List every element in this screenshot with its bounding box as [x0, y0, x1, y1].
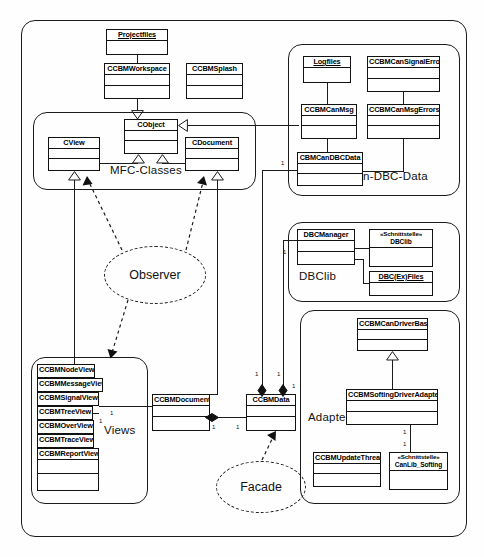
- pattern-facade: Facade: [216, 461, 306, 513]
- class-compartment-attributes: [314, 464, 380, 474]
- class-logfiles[interactable]: Logfiles: [303, 56, 351, 83]
- class-compartment-operations: [247, 417, 295, 430]
- pattern-label-observer: Observer: [129, 268, 180, 282]
- multiplicity-candbc-stray: 1: [281, 160, 284, 166]
- multiplicity-softing-1b: 1: [403, 441, 406, 447]
- gen-views-cview-v: [74, 180, 75, 364]
- assoc-dbcmanager-ccbmdata-h: [283, 240, 297, 241]
- class-compartment-operations: [186, 159, 238, 170]
- class-ccbmsplash[interactable]: CCBMSplash: [186, 63, 243, 99]
- class-ccbmmessageview[interactable]: CCBMMessageView: [37, 378, 103, 392]
- class-name-text-dbclib: DBClib: [390, 238, 411, 245]
- uml-class-diagram-canvas: Projectfiles CCBMWorkspace CCBMSplash MF…: [0, 0, 484, 557]
- class-name-ccbmdocument: CCBMDocument: [153, 395, 209, 406]
- class-dbc-ex-files[interactable]: DBC(Ex)Files: [369, 271, 433, 296]
- class-ccbmcansignalerror[interactable]: CCBMCanSignalError: [367, 56, 440, 92]
- class-compartment-operations: [370, 283, 432, 295]
- class-name-dbc-ex-files: DBC(Ex)Files: [370, 272, 432, 283]
- class-name-canlib-softing: «Schnittstelle» CanLib_Softing: [390, 453, 447, 471]
- composition-diamond-dbcmanager-ccbmdata: [278, 384, 288, 397]
- class-cdocument[interactable]: CDocument: [185, 137, 239, 171]
- generalization-arrow-views-cview: [68, 171, 81, 180]
- class-name-dbcmanager: DBCManager: [298, 230, 354, 241]
- assoc-dbcmanager-dbclib: [355, 248, 369, 249]
- class-ccbmworkspace[interactable]: CCBMWorkspace: [104, 63, 170, 99]
- class-dbcmanager[interactable]: DBCManager: [297, 229, 355, 265]
- assoc-softingadapter-canlibsofting: [410, 425, 411, 452]
- multiplicity-dbcmanager-1: 1: [277, 371, 280, 377]
- gen-ccbmdocument-cdocument-v: [217, 180, 218, 394]
- class-compartment-operations: [105, 86, 169, 98]
- class-compartment-attributes: [125, 131, 177, 141]
- assoc-canmsgerrors-candbcdata-v: [403, 139, 404, 171]
- assoc-canmsg-candbcdata: [327, 139, 328, 152]
- class-projectfiles[interactable]: Projectfiles: [106, 29, 168, 55]
- package-label-dbclib: DBClib: [299, 270, 336, 282]
- assoc-candbcdata-ccbmdata-v: [262, 170, 263, 388]
- class-compartment-attributes: [368, 116, 439, 126]
- class-ccbmnodeview[interactable]: CCBMNodeView: [37, 364, 95, 378]
- assoc-projectfiles-workspace: [137, 55, 138, 63]
- assoc-dbcmanager-dbcfiles-h1: [355, 259, 363, 260]
- class-compartment-attributes: [153, 406, 209, 417]
- class-compartment-operations: [298, 252, 354, 264]
- assoc-dbcmanager-ccbmdata-v: [283, 240, 284, 388]
- multiplicity-candbcdata-1: 1: [255, 371, 258, 377]
- class-compartment-operations: [368, 79, 439, 91]
- class-compartment-operations: [302, 126, 356, 138]
- multiplicity-doc-data-1a: 1: [212, 424, 215, 430]
- class-ccbmsoftingdriveradapter[interactable]: CCBMSoftingDriverAdapter: [346, 389, 438, 425]
- class-dbclib-interface[interactable]: «Schnittstelle» DBClib: [369, 229, 433, 267]
- class-ccbmoverview[interactable]: CCBMOverView: [37, 420, 94, 434]
- class-cbmcandbcdata[interactable]: CBMCanDBCData: [297, 152, 363, 186]
- class-ccbmdata[interactable]: CCBMData: [246, 394, 296, 431]
- stereotype-label-schnittstelle: «Schnittstelle»: [391, 454, 446, 461]
- class-canlib-softing-interface[interactable]: «Schnittstelle» CanLib_Softing: [389, 452, 448, 490]
- class-compartment-operations: [304, 68, 350, 82]
- generalization-arrow-cview-cobject: [132, 154, 145, 163]
- class-name-ccbmsoftingdriveradapter: CCBMSoftingDriverAdapter: [347, 390, 437, 401]
- class-compartment-operations: [49, 159, 99, 170]
- multiplicity-views-1b: 1: [99, 418, 102, 424]
- class-name-ccbmreportview: CCBMReportView: [38, 449, 98, 460]
- class-name-ccbmsignalview: CCBMSignalView: [38, 393, 98, 403]
- assoc-dbcmanager-dbcfiles-v: [363, 259, 364, 283]
- class-ccbmupdatethread[interactable]: CCBMUpdateThread: [313, 452, 381, 487]
- class-ccbmtraceview[interactable]: CCBMTraceView: [37, 434, 94, 448]
- class-ccbmcanmsgerrors[interactable]: CCBMCanMsgErrors: [367, 104, 440, 139]
- multiplicity-views-stray: 1: [110, 410, 113, 416]
- class-name-ccbmworkspace: CCBMWorkspace: [105, 64, 169, 75]
- class-compartment-attributes: [105, 75, 169, 86]
- class-ccbmdocument[interactable]: CCBMDocument: [152, 394, 210, 431]
- class-name-ccbmtraceview: CCBMTraceView: [38, 435, 93, 445]
- class-name-ccbmsplash: CCBMSplash: [187, 64, 242, 75]
- class-name-cdocument: CDocument: [186, 138, 238, 149]
- class-name-ccbmoverview: CCBMOverView: [38, 421, 93, 431]
- class-name-ccbmcansignalerror: CCBMCanSignalError: [368, 57, 439, 68]
- class-ccbmcandriverbase[interactable]: CCBMCanDriverBase: [357, 318, 428, 351]
- multiplicity-doc-data-1b: 1: [236, 424, 239, 430]
- multiplicity-dbclib-stray: 1: [283, 249, 286, 255]
- package-label-adapter: Adapter: [308, 411, 350, 423]
- class-name-cview: CView: [49, 138, 99, 149]
- assoc-cansignalerror-canmsgerrors: [403, 92, 404, 104]
- class-name-ccbmcanmsg: CCBMCanMsg: [302, 105, 356, 116]
- class-compartment-operations: [390, 471, 447, 489]
- class-name-ccbmnodeview: CCBMNodeView: [38, 365, 94, 375]
- class-name-dbclib-interface: «Schnittstelle» DBClib: [370, 230, 432, 248]
- class-ccbmreportview[interactable]: CCBMReportView: [37, 448, 99, 491]
- class-ccbmsignalview[interactable]: CCBMSignalView: [37, 392, 99, 406]
- class-compartment-operations: [38, 474, 98, 490]
- class-ccbmcanmsg[interactable]: CCBMCanMsg: [301, 104, 357, 139]
- class-cobject[interactable]: CObject: [124, 119, 178, 154]
- class-name-cbmcandbcdata: CBMCanDBCData: [298, 153, 362, 164]
- class-cview[interactable]: CView: [48, 137, 100, 171]
- class-name-logfiles: Logfiles: [304, 57, 350, 68]
- pattern-label-facade: Facade: [240, 480, 282, 494]
- class-ccbmtreeview[interactable]: CCBMTreeView: [37, 406, 93, 420]
- assoc-logfiles-canmsg: [327, 83, 328, 104]
- class-name-text-canlib-softing: CanLib_Softing: [395, 461, 442, 468]
- pattern-observer: Observer: [104, 246, 206, 304]
- assoc-signalview-ccbmdocument: [99, 406, 152, 407]
- class-compartment-operations: [187, 86, 242, 98]
